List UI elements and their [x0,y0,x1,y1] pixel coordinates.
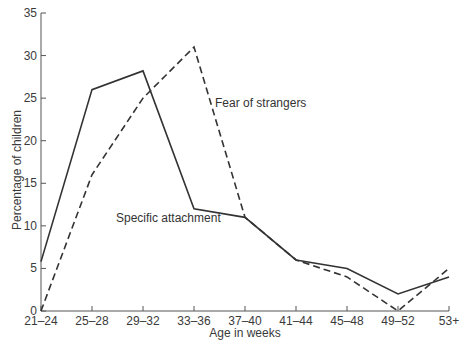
y-tick-label: 10 [24,219,38,233]
y-tick-label: 5 [30,261,37,275]
y-tick-label: 30 [24,49,38,63]
series-label-fear-of-strangers: Fear of strangers [215,96,306,110]
y-axis-title: Percentage of children [10,110,24,230]
x-tick-label: 29–32 [126,314,160,328]
y-tick-label: 15 [24,176,38,190]
y-axis: 05101520253035 [24,6,46,318]
x-axis-title: Age in weeks [209,326,280,340]
y-tick-label: 20 [24,134,38,148]
y-tick-label: 25 [24,91,38,105]
line-chart: 05101520253035 21–2425–2829–3233–3637–40… [0,0,473,351]
x-tick-label: 41–44 [279,314,313,328]
series-label-specific-attachment: Specific attachment [116,211,221,225]
x-axis: 21–2425–2829–3233–3637–4041–4445–4849–52… [24,306,459,328]
x-tick-label: 25–28 [75,314,109,328]
x-tick-label: 53+ [439,314,459,328]
y-tick-label: 35 [24,6,38,20]
series-group: Specific attachmentFear of strangers [41,47,449,311]
x-tick-label: 49–52 [381,314,415,328]
x-tick-label: 45–48 [330,314,364,328]
x-tick-label: 33–36 [177,314,211,328]
x-tick-label: 21–24 [24,314,58,328]
